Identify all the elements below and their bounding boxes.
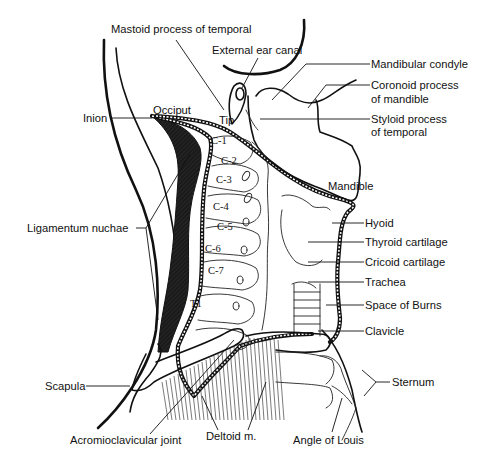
larynx-and-trachea	[281, 195, 330, 336]
label-styloid-2: of temporal	[371, 126, 427, 138]
label-sternum: Sternum	[392, 376, 434, 388]
label-cricoid-cartilage: Cricoid cartilage	[365, 256, 445, 268]
sternocleidomastoid-line	[322, 330, 362, 432]
vertebra-label: T1	[190, 298, 202, 309]
vertebra-label: C-3	[216, 174, 232, 185]
label-ligamentum-nuchae: Ligamentum nuchae	[27, 222, 128, 234]
vertebra-label: C-2	[221, 155, 237, 166]
label-occiput: Occiput	[153, 104, 192, 116]
label-hyoid: Hyoid	[365, 217, 394, 229]
neck-anatomy-diagram: Mastoid process of temporal External ear…	[0, 0, 504, 468]
vertebra-label: C-1	[211, 135, 227, 146]
label-clavicle: Clavicle	[365, 325, 404, 337]
label-acromioclavicular-joint: Acromioclavicular joint	[70, 434, 182, 446]
label-inion: Inion	[83, 112, 107, 124]
label-thyroid-cartilage: Thyroid cartilage	[365, 236, 448, 248]
skin-contour	[98, 40, 176, 428]
label-coronoid-1: Coronoid process	[371, 79, 459, 91]
vertebra-label: C-4	[213, 201, 230, 212]
label-ear-canal: External ear canal	[212, 44, 302, 56]
label-styloid-1: Styloid process	[371, 113, 447, 125]
label-mastoid: Mastoid process of temporal	[111, 23, 252, 35]
labels: Mastoid process of temporal External ear…	[27, 23, 468, 446]
label-mandibular-condyle: Mandibular condyle	[371, 58, 468, 70]
label-mandible: Mandible	[328, 180, 373, 192]
label-space-of-burns: Space of Burns	[365, 299, 442, 311]
vertebra-label: C-6	[205, 243, 221, 254]
label-coronoid-2: of mandible	[371, 93, 429, 105]
ligamentum-nuchae-shape	[152, 116, 201, 352]
vertebra-label: C-5	[217, 221, 233, 232]
label-scapula: Scapula	[45, 380, 86, 392]
label-tip: Tip	[219, 114, 234, 126]
label-trachea: Trachea	[365, 276, 406, 288]
label-angle-of-louis: Angle of Louis	[293, 434, 364, 446]
label-deltoid: Deltoid m.	[206, 430, 256, 442]
vertebra-label: C-7	[208, 265, 224, 276]
